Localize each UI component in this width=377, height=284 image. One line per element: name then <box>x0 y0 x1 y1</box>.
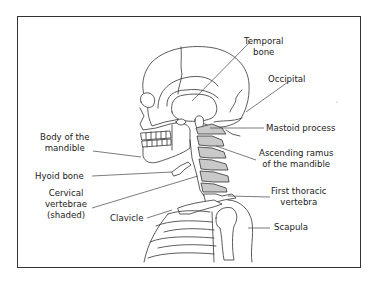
label-temporal-bone: Temporal bone <box>244 36 283 58</box>
label-line: (shaded) <box>45 210 87 221</box>
rib <box>150 237 214 242</box>
leader-hyoid-bone <box>92 172 172 176</box>
leader-cervical-vertebrae <box>92 176 198 208</box>
label-cervical-vertebrae: Cervical vertebrae (shaded) <box>45 188 87 221</box>
label-line: Ascending ramus <box>259 148 333 159</box>
label-line: Temporal <box>244 36 283 47</box>
label-line: vertebra <box>271 197 327 208</box>
label-line: of the mandible <box>259 159 333 170</box>
label-line: bone <box>244 47 283 58</box>
label-body-of-mandible: Body of the mandible <box>40 132 90 154</box>
label-line: mandible <box>40 143 90 154</box>
label-ascending-ramus: Ascending ramus of the mandible <box>259 148 333 170</box>
vertebra-c3 <box>198 147 226 158</box>
cervical-vertebrae <box>196 124 229 192</box>
rib <box>164 229 214 232</box>
stray-dot <box>336 101 337 102</box>
label-hyoid-bone: Hyoid bone <box>35 171 84 182</box>
rib <box>156 221 212 226</box>
vertebra-c4 <box>199 159 228 170</box>
rib <box>148 253 214 258</box>
leader-body-of-mandible <box>93 151 141 157</box>
label-line: Body of the <box>40 132 90 143</box>
vertebra-c6 <box>201 183 227 192</box>
rib <box>158 245 216 248</box>
leader-occipital <box>246 82 288 112</box>
label-line: Clavicle <box>110 213 144 224</box>
skull <box>140 47 249 163</box>
humerus-head <box>216 207 237 260</box>
label-clavicle: Clavicle <box>110 213 144 224</box>
label-line: vertebrae <box>45 199 87 210</box>
vertebra-c2 <box>197 136 224 146</box>
label-line: Cervical <box>45 188 87 199</box>
label-line: Hyoid bone <box>35 171 84 182</box>
label-line: Scapula <box>274 222 308 233</box>
label-line: First thoracic <box>271 186 327 197</box>
orbit <box>140 93 154 108</box>
hyoid-bone <box>172 162 191 176</box>
clavicle <box>178 200 222 214</box>
label-mastoid-process: Mastoid process <box>266 123 335 134</box>
label-occipital: Occipital <box>268 74 305 85</box>
label-line: Occipital <box>268 74 305 85</box>
temporal-bone <box>172 94 217 121</box>
label-line: Mastoid process <box>266 123 335 134</box>
rib-cage <box>144 211 216 262</box>
sternum-side <box>212 212 214 262</box>
vertebra-c5 <box>200 171 229 182</box>
label-scapula: Scapula <box>274 222 308 233</box>
neck-back <box>226 130 240 136</box>
label-first-thoracic-vertebra: First thoracic vertebra <box>271 186 327 208</box>
